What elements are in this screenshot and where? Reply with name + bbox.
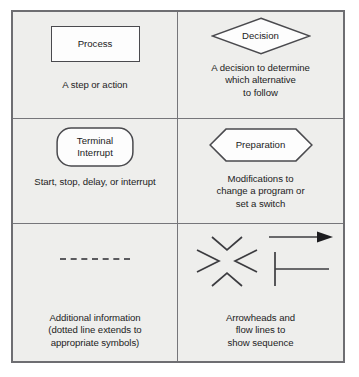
flowchart-symbols-figure: Process A step or action Decision A deci… (0, 0, 359, 377)
arrowheads-and-flow-lines-icon (183, 224, 339, 294)
chevron-down-icon (212, 237, 242, 250)
process-shape-label: Process (78, 38, 113, 50)
cell-arrowheads-flow-lines: Arrowheads and flow lines to show sequen… (178, 224, 343, 361)
dotted-line-shape-area (13, 224, 177, 294)
terminal-stadium-shape: Terminal Interrupt (56, 127, 134, 167)
terminal-shape-label: Terminal Interrupt (77, 135, 113, 158)
chevron-up-icon (212, 273, 242, 286)
cell-decision: Decision A decision to determine which a… (178, 12, 343, 119)
decision-shape-area: Decision (178, 12, 343, 60)
cell-process: Process A step or action (13, 12, 178, 119)
cell-additional-information: Additional information (dotted line exte… (13, 224, 178, 361)
arrowheads-flow-lines-caption: Arrowheads and flow lines to show sequen… (226, 312, 295, 349)
arrows-shape-area (178, 224, 343, 294)
arrowhead-filled-icon (317, 232, 333, 243)
preparation-shape-label: Preparation (236, 139, 286, 151)
decision-diamond-shape: Decision (211, 17, 311, 55)
preparation-shape-area: Preparation (178, 119, 343, 171)
terminal-caption: Start, stop, delay, or interrupt (34, 176, 155, 188)
additional-information-caption: Additional information (dotted line exte… (48, 312, 141, 349)
dotted-line-icon (60, 258, 130, 260)
cell-terminal-interrupt: Terminal Interrupt Start, stop, delay, o… (13, 119, 178, 224)
preparation-caption: Modifications to change a program or set… (216, 173, 304, 210)
cropped-title-remnant (148, 0, 208, 6)
decision-caption: A decision to determine which alternativ… (211, 62, 310, 99)
process-shape-area: Process (13, 12, 177, 76)
process-rectangle-shape: Process (51, 26, 140, 62)
preparation-hexagon-shape: Preparation (209, 128, 313, 162)
process-caption: A step or action (62, 79, 127, 91)
decision-shape-label: Decision (242, 30, 279, 42)
symbols-table: Process A step or action Decision A deci… (11, 10, 345, 363)
cell-preparation: Preparation Modifications to change a pr… (178, 119, 343, 224)
terminal-shape-area: Terminal Interrupt (13, 119, 177, 175)
chevron-left-icon (235, 250, 257, 272)
chevron-right-icon (197, 250, 219, 272)
